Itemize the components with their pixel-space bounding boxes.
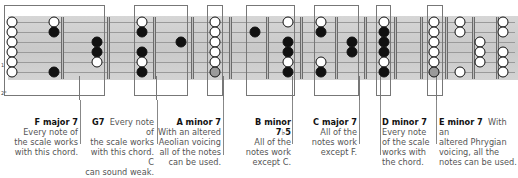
scale-tone-dot xyxy=(455,67,466,78)
label-line: notes can be used. xyxy=(439,157,517,167)
label-line: Every note of xyxy=(110,117,154,137)
label-e-minor-7: E minor 7 With an altered Phrygian voici… xyxy=(439,117,517,167)
label-title: B minor 7♭5 xyxy=(238,117,291,137)
label-title: A minor 7 xyxy=(150,117,221,127)
label-title: G7 xyxy=(92,117,104,127)
connector-line xyxy=(223,76,224,100)
connector-line xyxy=(359,76,360,100)
chord-tone-dot xyxy=(316,27,327,38)
label-divider xyxy=(436,100,437,144)
label-b-minor-7b5: B minor 7♭5 All of the notes work except… xyxy=(238,117,291,167)
label-line: With an altered xyxy=(150,127,221,137)
label-line: the chord. xyxy=(382,157,432,167)
string-number-mark: 1 xyxy=(1,62,4,68)
label-line: with this chord. C xyxy=(84,147,154,167)
scale-tone-dot xyxy=(92,57,103,68)
chord-tone-dot xyxy=(347,47,358,58)
label-divider xyxy=(380,100,381,155)
label-divider xyxy=(223,100,224,155)
label-divider xyxy=(80,100,81,144)
scale-tone-dot xyxy=(475,57,486,68)
label-divider xyxy=(359,100,360,144)
scale-tone-dot xyxy=(455,27,466,38)
chord-tone-dot xyxy=(250,27,261,38)
label-line: Every note xyxy=(382,127,432,137)
scale-tone-dot xyxy=(498,67,509,78)
fret-bar xyxy=(229,17,232,79)
label-line: except F. xyxy=(303,147,357,157)
label-line: All of the xyxy=(238,137,291,147)
fret-bar xyxy=(364,17,367,79)
chord-tone-dot xyxy=(283,67,294,78)
fret-bar xyxy=(107,17,110,79)
label-d-minor-7: D minor 7 Every note of the scale works … xyxy=(382,117,432,167)
label-f-major-7: F major 7 Every note of the scale works … xyxy=(8,117,78,157)
label-line: Aeolian voicing xyxy=(150,137,221,147)
label-title: E minor 7 xyxy=(439,117,483,127)
root-dot xyxy=(210,67,221,78)
scale-tone-dot xyxy=(7,67,18,78)
label-line: notes work xyxy=(238,147,291,157)
label-title: C major 7 xyxy=(303,117,357,127)
connector-line xyxy=(79,76,80,100)
label-line: works with xyxy=(382,147,432,157)
chord-tone-dot xyxy=(49,67,60,78)
corner-mark: 2° xyxy=(1,90,7,96)
label-line: the scale works xyxy=(84,137,154,147)
root-dot xyxy=(429,67,440,78)
label-a-minor-7: A minor 7 With an altered Aeolian voicin… xyxy=(150,117,221,167)
fret-bar xyxy=(445,17,448,79)
connector-line xyxy=(156,76,157,100)
scale-tone-dot xyxy=(283,17,294,28)
label-line: All of the xyxy=(303,127,357,137)
label-line: of the scale xyxy=(382,137,432,147)
fret-bar xyxy=(394,17,397,79)
chord-scale-diagram: 1 2° F major 7 Every note of the scale w… xyxy=(0,0,518,178)
label-line: can sound weak. xyxy=(84,167,154,177)
fret-bar xyxy=(300,17,303,79)
chord-tone-dot xyxy=(49,27,60,38)
chord-tone-dot xyxy=(137,27,148,38)
fret-bar xyxy=(191,17,194,79)
label-g7: G7 Every note of the scale works with th… xyxy=(84,117,154,177)
label-line: except C. xyxy=(238,157,291,167)
label-line: notes work xyxy=(303,137,357,147)
connector-line xyxy=(292,76,293,100)
label-divider xyxy=(292,100,293,144)
chord-tone-dot xyxy=(379,67,390,78)
label-line: with this chord. xyxy=(8,147,78,157)
label-title: F major 7 xyxy=(8,117,78,127)
connector-line xyxy=(436,76,437,100)
label-line: Every note of xyxy=(8,127,78,137)
label-c-major-7: C major 7 All of the notes work except F… xyxy=(303,117,357,157)
chord-tone-dot xyxy=(137,67,148,78)
chord-tone-dot xyxy=(176,37,187,48)
scale-tone-dot xyxy=(498,27,509,38)
label-line: can be used. xyxy=(150,157,221,167)
label-line: all of the notes xyxy=(150,147,221,157)
fret-bar xyxy=(420,17,423,79)
chord-tone-dot xyxy=(316,67,327,78)
label-line: altered Phrygian xyxy=(439,137,517,147)
connector-line xyxy=(380,76,381,100)
label-line: voicing, all the xyxy=(439,147,517,157)
label-title: D minor 7 xyxy=(382,117,432,127)
label-line: the scale works xyxy=(8,137,78,147)
